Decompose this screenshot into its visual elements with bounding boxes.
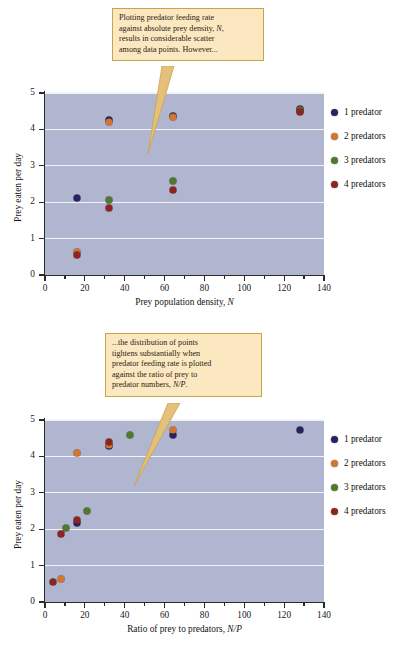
callout-top-line-4: among data points. However... [119,45,257,56]
data-point [73,449,80,456]
y-tick-label: 1 [17,233,35,243]
x-tick-label: 40 [111,610,139,620]
legend-swatch-3-predators-icon [331,484,338,491]
callout-bottom-line-4: against the ratio of prey to [112,370,255,381]
x-tick [124,603,125,608]
data-point [73,194,80,201]
y-tick [39,492,44,493]
plot-area-top [45,93,324,275]
data-point [105,438,112,445]
data-point [169,178,176,185]
data-point [84,507,91,514]
callout-top-line-3: results in considerable scatter [119,34,257,45]
x-tick [244,603,245,608]
y-tick-label: 5 [17,87,35,97]
x-minor-tick [144,603,145,606]
data-point [169,427,176,434]
x-axis-title-top: Prey population density, N [120,297,250,307]
gridline [45,492,324,493]
x-tick [164,603,165,608]
x-minor-tick [64,603,65,606]
y-tick-label: 0 [17,269,35,279]
callout-bottom-line-3: predator feeding rate is plotted [112,359,255,370]
x-minor-tick [64,276,65,279]
y-tick-label: 5 [17,414,35,424]
legend-label-1-predator: 1 predator [344,434,382,444]
x-tick-label: 20 [71,610,99,620]
gridline [45,565,324,566]
legend-label-4-predators: 4 predators [344,179,386,189]
legend-item-3-predators[interactable]: 3 predators [331,475,386,499]
x-tick [204,276,205,281]
y-tick-label: 2 [17,523,35,533]
y-tick [39,238,44,239]
data-point [57,576,64,583]
legend-swatch-2-predators-icon [331,460,338,467]
callout-bottom: ...the distribution of points tightens s… [105,333,262,397]
data-point [57,531,64,538]
x-tick-label: 80 [190,610,218,620]
x-tick-label: 100 [230,610,258,620]
x-tick [204,603,205,608]
legend-label-4-predators: 4 predators [344,506,386,516]
legend-swatch-1-predator-icon [331,109,338,116]
legend-label-2-predators: 2 predators [344,458,386,468]
legend-swatch-4-predators-icon [331,181,338,188]
x-tick [84,276,85,281]
legend-item-2-predators[interactable]: 2 predators [331,124,386,148]
y-tick [39,565,44,566]
data-point [73,517,80,524]
legend-item-1-predator[interactable]: 1 predator [331,100,386,124]
plot-area-bottom [45,420,324,602]
legend-item-3-predators[interactable]: 3 predators [331,148,386,172]
legend-label-3-predators: 3 predators [344,155,386,165]
data-point [297,108,304,115]
y-tick [39,202,44,203]
x-minor-tick [224,276,225,279]
data-point [105,118,112,125]
legend-item-2-predators[interactable]: 2 predators [331,451,386,475]
x-tick [284,603,285,608]
legend-item-4-predators[interactable]: 4 predators [331,499,386,523]
callout-bottom-line-2: tightens substantially when [112,349,255,360]
legend-item-1-predator[interactable]: 1 predator [331,427,386,451]
x-minor-tick [224,603,225,606]
x-tick-label: 100 [230,283,258,293]
x-minor-tick [104,276,105,279]
x-tick-label: 120 [270,283,298,293]
y-tick-label: 0 [17,596,35,606]
legend-swatch-3-predators-icon [331,157,338,164]
callout-top: Plotting predator feeding rate against a… [112,8,264,61]
y-tick-label: 3 [17,487,35,497]
y-tick [39,601,44,602]
data-point [127,431,134,438]
y-tick [39,529,44,530]
data-point [105,196,112,203]
legend-label-2-predators: 2 predators [344,131,386,141]
x-tick-label: 20 [71,283,99,293]
x-tick [284,276,285,281]
x-tick [124,276,125,281]
data-point [63,525,70,532]
y-tick [39,456,44,457]
gridline [45,529,324,530]
y-tick-label: 4 [17,123,35,133]
gridline [45,202,324,203]
data-point [49,578,56,585]
gridline [45,419,324,420]
x-tick-label: 0 [31,283,59,293]
y-tick-label: 4 [17,450,35,460]
legend-item-4-predators[interactable]: 4 predators [331,172,386,196]
x-tick [84,603,85,608]
y-axis-line [44,91,45,277]
y-tick-label: 1 [17,560,35,570]
x-tick [244,276,245,281]
gridline [45,238,324,239]
gridline [45,456,324,457]
y-tick [39,92,44,93]
data-point [105,205,112,212]
legend-swatch-2-predators-icon [331,133,338,140]
x-tick-label: 80 [190,283,218,293]
y-tick [39,419,44,420]
legend-top: 1 predator 2 predators 3 predators 4 pre… [331,100,386,196]
